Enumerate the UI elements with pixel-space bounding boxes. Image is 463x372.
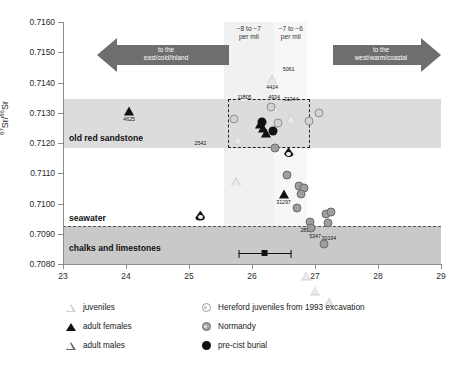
- vertical-band-label-line2: per mil: [274, 33, 307, 41]
- reference-label-seawater: seawater: [69, 213, 106, 223]
- x-tick: [189, 264, 190, 269]
- y-tick-label: 0.7140: [30, 78, 55, 88]
- arrow-west-text: to thewest/warm/coastal: [333, 46, 429, 63]
- legend-item-normandy[interactable]: Normandy: [198, 317, 443, 336]
- y-tick-label: 0.7160: [30, 17, 55, 27]
- data-point-normandy: [297, 190, 306, 199]
- data-point-adult-males: [284, 147, 294, 157]
- x-tick-label: 29: [436, 271, 445, 281]
- legend-label-hereford: Hereford juveniles from 1993 excavation: [218, 303, 365, 312]
- legend-item-juveniles[interactable]: juveniles: [63, 298, 178, 317]
- legend-column-left: juvenilesadult femalesadult males: [63, 298, 178, 355]
- y-tick: [58, 83, 63, 84]
- legend-item-adult-males[interactable]: adult males: [63, 336, 178, 355]
- y-axis-slash: /: [0, 117, 10, 120]
- x-tick-label: 27: [310, 271, 319, 281]
- data-point-normandy: [293, 204, 302, 213]
- arrow-east-text: to theeast/cold/inland: [105, 46, 227, 63]
- data-point-label: 31297: [276, 199, 291, 205]
- data-point-pre-cist-burial: [258, 118, 267, 127]
- x-tick: [63, 264, 64, 269]
- legend-column-right: Hereford juveniles from 1993 excavationN…: [198, 298, 443, 355]
- legend-item-adult-females[interactable]: adult females: [63, 317, 178, 336]
- data-point-normandy: [282, 170, 291, 179]
- vertical-band-label-line2: per mil: [224, 33, 274, 41]
- data-point-normandy: [327, 207, 336, 216]
- data-point-pre-cist-burial: [269, 126, 278, 135]
- triangle-outline-icon: [66, 342, 76, 350]
- data-point-juveniles: [267, 75, 277, 84]
- x-tick-label: 26: [247, 271, 256, 281]
- plot-area: −8 to −7per mil−7 to −6per mil old red s…: [63, 22, 441, 264]
- legend-label-juveniles: juveniles: [83, 303, 115, 312]
- y-tick: [58, 22, 63, 23]
- data-point-label: 4625: [123, 116, 135, 122]
- legend-symbol-wrap: [63, 304, 79, 312]
- band-label-chalks-and-limestones: chalks and limestones: [69, 243, 161, 253]
- data-point-juveniles: [310, 286, 320, 295]
- data-point-label: 4934: [268, 94, 280, 100]
- data-point-adult-males: [195, 211, 205, 221]
- triangle-open-icon: [66, 304, 76, 312]
- vertical-band-label-1: −8 to −7per mil: [224, 25, 274, 41]
- data-point-label: 11805: [237, 94, 251, 100]
- y-tick-label: 0.7130: [30, 108, 55, 118]
- data-point-adult-females: [279, 190, 289, 199]
- circle-grey-icon: [202, 322, 211, 331]
- y-tick-label: 0.7150: [30, 47, 55, 57]
- arrow-text-line1: to the: [333, 46, 429, 54]
- y-axis-sr-2: Sr: [0, 101, 10, 110]
- data-point-label: 2542: [195, 140, 207, 146]
- data-point-normandy: [270, 144, 279, 153]
- x-tick: [126, 264, 127, 269]
- data-point-normandy: [306, 224, 315, 233]
- circle-open-icon: [202, 303, 211, 312]
- y-tick-label: 0.7090: [30, 229, 55, 239]
- legend-symbol-wrap: [198, 341, 214, 350]
- legend-symbol-wrap: [63, 323, 79, 331]
- y-tick: [58, 234, 63, 235]
- x-tick: [315, 264, 316, 269]
- x-tick-label: 24: [121, 271, 130, 281]
- legend-label-adult-males: adult males: [83, 341, 125, 350]
- data-point-adult-females: [124, 107, 134, 116]
- data-point-juveniles: [286, 113, 296, 122]
- strontium-isotope-scatter-figure: 87Sr/86Sr −8 to −7per mil−7 to −6per mil…: [0, 0, 463, 372]
- legend-symbol-wrap: [198, 303, 214, 312]
- y-tick-label: 0.7080: [30, 259, 55, 269]
- measurement-error-bar: [238, 248, 291, 258]
- legend-label-pre-cist: pre-cist burial: [218, 341, 267, 350]
- x-tick: [378, 264, 379, 269]
- data-point-label: 5347: [309, 233, 321, 239]
- y-tick-label: 0.7100: [30, 199, 55, 209]
- data-point-label: 4424: [266, 84, 278, 90]
- data-point-normandy: [323, 219, 332, 228]
- reference-line-seawater: [63, 226, 441, 227]
- x-tick-label: 23: [58, 271, 67, 281]
- y-tick-label: 0.7120: [30, 138, 55, 148]
- data-point-juveniles: [231, 177, 241, 186]
- data-point-juveniles: [233, 135, 243, 144]
- y-axis-line: [63, 22, 64, 264]
- x-tick-label: 25: [184, 271, 193, 281]
- legend-item-pre-cist[interactable]: pre-cist burial: [198, 336, 443, 355]
- y-tick-label: 0.7110: [30, 168, 55, 178]
- y-tick: [58, 52, 63, 53]
- vertical-band-label-2: −7 to −6per mil: [274, 25, 307, 41]
- legend-label-adult-females: adult females: [83, 322, 132, 331]
- arrow-text-line2: west/warm/coastal: [333, 54, 429, 62]
- y-axis-title: 87Sr/86Sr: [0, 101, 10, 135]
- data-point-hereford-juveniles-from-1993-excavation: [304, 117, 313, 126]
- y-axis-sr-1: Sr: [0, 119, 10, 128]
- band-label-old-red-sandstone: old red sandstone: [69, 133, 143, 143]
- arrow-east: to theeast/cold/inland: [97, 38, 229, 72]
- data-point-normandy: [319, 240, 328, 249]
- legend-symbol-wrap: [63, 342, 79, 350]
- y-tick: [58, 143, 63, 144]
- arrow-west: to thewest/warm/coastal: [333, 38, 441, 72]
- vertical-band-label-line1: −7 to −6: [274, 25, 307, 33]
- y-tick: [58, 204, 63, 205]
- data-point-hereford-juveniles-from-1993-excavation: [230, 115, 239, 124]
- x-tick: [441, 264, 442, 269]
- legend-item-hereford[interactable]: Hereford juveniles from 1993 excavation: [198, 298, 443, 317]
